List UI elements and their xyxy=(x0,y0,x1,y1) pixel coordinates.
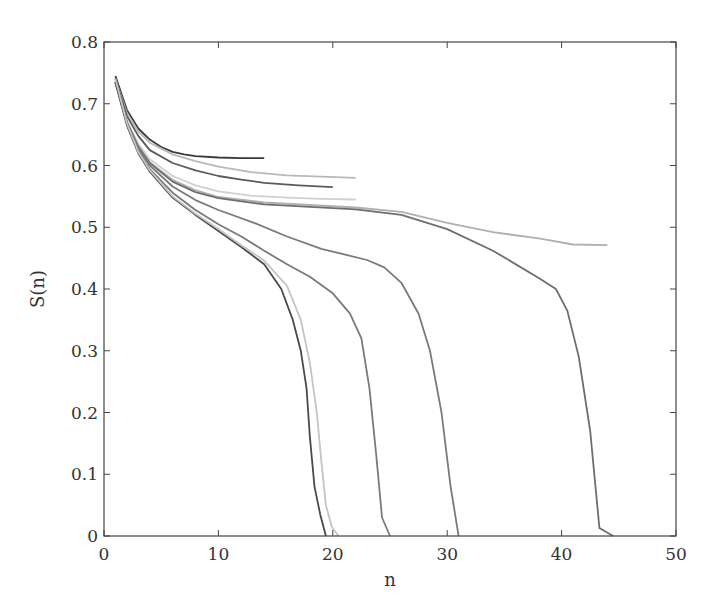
y-tick-label: 0.7 xyxy=(71,94,98,114)
series-line-3 xyxy=(115,79,332,187)
x-tick-label: 40 xyxy=(551,544,573,564)
x-tick-label: 50 xyxy=(665,544,687,564)
y-tick-label: 0.8 xyxy=(71,32,98,52)
y-tick-label: 0.4 xyxy=(71,279,98,299)
plot-frame xyxy=(104,42,676,536)
y-tick-label: 0 xyxy=(87,526,98,546)
y-tick-label: 0.6 xyxy=(71,156,98,176)
series-lines xyxy=(115,76,613,536)
x-tick-label: 0 xyxy=(99,544,110,564)
series-line-8 xyxy=(115,82,390,536)
x-tick-label: 30 xyxy=(436,544,458,564)
series-line-6 xyxy=(115,82,613,536)
series-line-5 xyxy=(115,82,607,245)
y-tick-label: 0.1 xyxy=(71,464,98,484)
y-tick-label: 0.2 xyxy=(71,403,98,423)
y-tick-label: 0.5 xyxy=(71,217,98,237)
x-axis-label: n xyxy=(384,569,396,590)
x-tick-label: 20 xyxy=(322,544,344,564)
x-tick-label: 10 xyxy=(208,544,230,564)
y-axis-label: S(n) xyxy=(27,270,48,308)
y-tick-label: 0.3 xyxy=(71,341,98,361)
series-line-9 xyxy=(115,82,326,536)
line-chart: 0102030405000.10.20.30.40.50.60.70.8 n S… xyxy=(0,0,723,610)
